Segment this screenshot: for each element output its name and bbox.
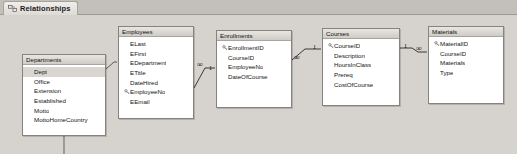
field-row[interactable]: EmployeeNo	[217, 62, 291, 72]
field-row[interactable]: Materials	[429, 58, 503, 68]
cardinality-enrollments-courses-one: 1	[313, 44, 316, 50]
relationships-icon	[8, 4, 17, 13]
field-row[interactable]: EFirst	[119, 49, 193, 59]
field-row[interactable]: Established	[23, 96, 105, 106]
field-name: CostOfCourse	[334, 80, 373, 89]
field-name: ETitle	[130, 68, 146, 77]
field-row[interactable]: Office	[23, 77, 105, 87]
field-name: HoursInClass	[334, 60, 371, 69]
relationships-canvas[interactable]: ∞ 1 ∞ 1 1 ∞ Departments Dept Office	[0, 15, 517, 154]
table-enrollments[interactable]: Enrollments EnrollmentID CourseID	[216, 30, 292, 108]
field-row[interactable]: EnrollmentID	[217, 43, 291, 53]
primary-key-icon	[221, 45, 228, 51]
cardinality-courses-materials-many: ∞	[416, 46, 422, 52]
field-name: Prereq	[334, 70, 353, 79]
table-enrollments-header[interactable]: Enrollments	[217, 31, 291, 41]
field-row[interactable]: EDepartment	[119, 58, 193, 68]
table-enrollments-title: Enrollments	[220, 31, 253, 40]
table-departments[interactable]: Departments Dept Office Extension Estab	[22, 54, 106, 136]
field-row[interactable]: ETitle	[119, 68, 193, 78]
field-row[interactable]: Prereq	[323, 70, 399, 80]
table-courses-fields: CourseID Description HoursInClass Prereq…	[323, 39, 399, 91]
field-name: EDepartment	[130, 58, 166, 67]
table-materials-fields: MaterialID CourseID Materials Type	[429, 37, 503, 79]
table-employees[interactable]: Employees ELast EFirst EDepartment ETit	[118, 26, 194, 119]
field-name: MaterialID	[440, 39, 468, 48]
field-name: DateOfCourse	[228, 72, 268, 81]
table-materials[interactable]: Materials MaterialID CourseID	[428, 26, 504, 104]
field-row[interactable]: Extension	[23, 86, 105, 96]
table-courses[interactable]: Courses CourseID Description	[322, 28, 400, 106]
field-row[interactable]: ELast	[119, 39, 193, 49]
field-name: ELast	[130, 39, 146, 48]
field-name: Motto	[34, 106, 49, 115]
field-name: CourseID	[228, 53, 254, 62]
relationship-line-departments-employees	[106, 62, 114, 69]
field-name: Materials	[440, 58, 465, 67]
field-row[interactable]: DateHired	[119, 77, 193, 87]
field-name: Established	[34, 96, 66, 105]
field-row[interactable]: HoursInClass	[323, 60, 399, 70]
field-row[interactable]: EmployeeNo	[119, 87, 193, 97]
field-row[interactable]: CostOfCourse	[323, 79, 399, 89]
table-materials-header[interactable]: Materials	[429, 27, 503, 37]
tab-relationships-label: Relationships	[20, 4, 70, 13]
table-materials-title: Materials	[432, 27, 457, 36]
primary-key-icon	[123, 89, 130, 95]
field-name: MottoHomeCountry	[34, 115, 88, 124]
field-name: Description	[334, 51, 365, 60]
field-row[interactable]: Motto	[23, 105, 105, 115]
cardinality-enrollments-courses-many: ∞	[294, 55, 300, 61]
cardinality-courses-materials-one: 1	[404, 43, 407, 49]
table-employees-fields: ELast EFirst EDepartment ETitle DateHire…	[119, 37, 193, 108]
field-row[interactable]: CourseID	[429, 49, 503, 59]
table-employees-header[interactable]: Employees	[119, 27, 193, 37]
field-name: EEmail	[130, 97, 150, 106]
field-row[interactable]: DateOfCourse	[217, 72, 291, 82]
field-row[interactable]: Type	[429, 68, 503, 78]
field-name: EFirst	[130, 49, 146, 58]
field-name: DateHired	[130, 78, 158, 87]
field-name: Dept	[34, 67, 47, 76]
table-departments-title: Departments	[26, 55, 61, 64]
table-departments-fields: Dept Office Extension Established Motto	[23, 65, 105, 127]
relationship-line-employees-enrollments	[194, 68, 215, 88]
field-name: Office	[34, 77, 50, 86]
field-row[interactable]: EEmail	[119, 97, 193, 107]
primary-key-icon	[327, 43, 334, 49]
field-row[interactable]: Description	[323, 51, 399, 61]
field-name: Extension	[34, 86, 61, 95]
field-row[interactable]: CourseID	[323, 41, 399, 51]
cardinality-employees-enrollments-one: 1	[209, 65, 212, 71]
relationships-window: Relationships ∞ 1 ∞ 1 1 ∞ Depar	[0, 0, 517, 154]
field-name: EnrollmentID	[228, 43, 264, 52]
table-enrollments-fields: EnrollmentID CourseID EmployeeNo DateOfC…	[217, 41, 291, 83]
tab-relationships[interactable]: Relationships	[3, 1, 78, 15]
field-row[interactable]: CourseID	[217, 53, 291, 63]
table-departments-header[interactable]: Departments	[23, 55, 105, 65]
table-courses-title: Courses	[326, 29, 349, 38]
field-row[interactable]: MottoHomeCountry	[23, 115, 105, 125]
field-row[interactable]: Dept	[23, 67, 105, 77]
field-name: Type	[440, 68, 453, 77]
field-name: EmployeeNo	[130, 87, 165, 96]
table-courses-header[interactable]: Courses	[323, 29, 399, 39]
field-name: EmployeeNo	[228, 62, 263, 71]
primary-key-icon	[433, 41, 440, 47]
cardinality-employees-enrollments-many: ∞	[197, 62, 203, 68]
field-name: CourseID	[440, 49, 466, 58]
field-name: CourseID	[334, 41, 360, 50]
field-row[interactable]: MaterialID	[429, 39, 503, 49]
tab-strip: Relationships	[0, 0, 517, 15]
table-employees-title: Employees	[122, 27, 153, 36]
